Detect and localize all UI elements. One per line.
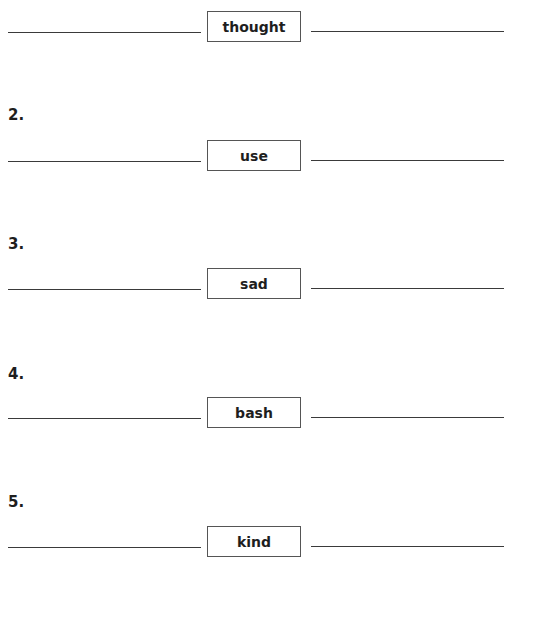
word-text: use bbox=[240, 148, 268, 164]
word-text: bash bbox=[235, 405, 273, 421]
answer-blank-left[interactable] bbox=[8, 289, 201, 290]
item-number: 2. bbox=[8, 107, 24, 123]
answer-blank-right[interactable] bbox=[311, 288, 504, 289]
word-box: kind bbox=[207, 526, 301, 557]
answer-blank-right[interactable] bbox=[311, 546, 504, 547]
word-text: kind bbox=[237, 534, 271, 550]
word-box: thought bbox=[207, 11, 301, 42]
answer-blank-right[interactable] bbox=[311, 160, 504, 161]
answer-blank-left[interactable] bbox=[8, 161, 201, 162]
item-number: 4. bbox=[8, 366, 24, 382]
word-text: thought bbox=[223, 19, 286, 35]
answer-blank-left[interactable] bbox=[8, 547, 201, 548]
answer-blank-right[interactable] bbox=[311, 417, 504, 418]
answer-blank-left[interactable] bbox=[8, 418, 201, 419]
word-box: use bbox=[207, 140, 301, 171]
item-number: 3. bbox=[8, 236, 24, 252]
answer-blank-right[interactable] bbox=[311, 31, 504, 32]
word-box: bash bbox=[207, 397, 301, 428]
answer-blank-left[interactable] bbox=[8, 32, 201, 33]
word-box: sad bbox=[207, 268, 301, 299]
item-number: 5. bbox=[8, 494, 24, 510]
word-text: sad bbox=[240, 276, 268, 292]
